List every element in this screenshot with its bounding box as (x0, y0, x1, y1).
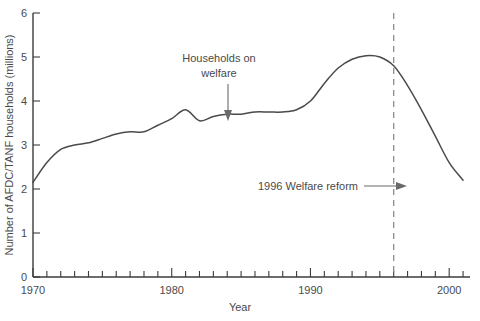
x-tick-label-1990: 1990 (298, 284, 322, 296)
households-annotation-arrow-head (224, 110, 232, 121)
households-annotation-line2: welfare (200, 67, 236, 79)
y-tick-label-2: 2 (21, 183, 27, 195)
chart-container: 0123456 1970198019902000 Number of AFDC/… (0, 0, 480, 321)
line-chart: 0123456 1970198019902000 Number of AFDC/… (0, 0, 480, 321)
welfare-reform-annotation-arrow-head (396, 182, 407, 190)
x-tick-label-1970: 1970 (21, 284, 45, 296)
households-annotation: Households on welfare (182, 52, 255, 121)
welfare-households-line (33, 55, 463, 182)
x-axis-tick-labels: 1970198019902000 (21, 284, 462, 296)
y-tick-label-3: 3 (21, 139, 27, 151)
y-tick-label-6: 6 (21, 7, 27, 19)
households-annotation-line1: Households on (182, 52, 255, 64)
x-axis-title: Year (229, 301, 252, 313)
y-axis-title: Number of AFDC/TANF households (millions… (3, 34, 15, 255)
x-tick-label-1980: 1980 (159, 284, 183, 296)
x-tick-label-2000: 2000 (437, 284, 461, 296)
x-axis-ticks (33, 268, 463, 277)
y-tick-label-4: 4 (21, 95, 27, 107)
y-tick-label-1: 1 (21, 227, 27, 239)
y-tick-label-5: 5 (21, 51, 27, 63)
y-axis-ticks: 0123456 (21, 7, 40, 283)
welfare-reform-annotation: 1996 Welfare reform (258, 180, 407, 192)
y-tick-label-0: 0 (21, 271, 27, 283)
welfare-reform-annotation-label: 1996 Welfare reform (258, 180, 358, 192)
